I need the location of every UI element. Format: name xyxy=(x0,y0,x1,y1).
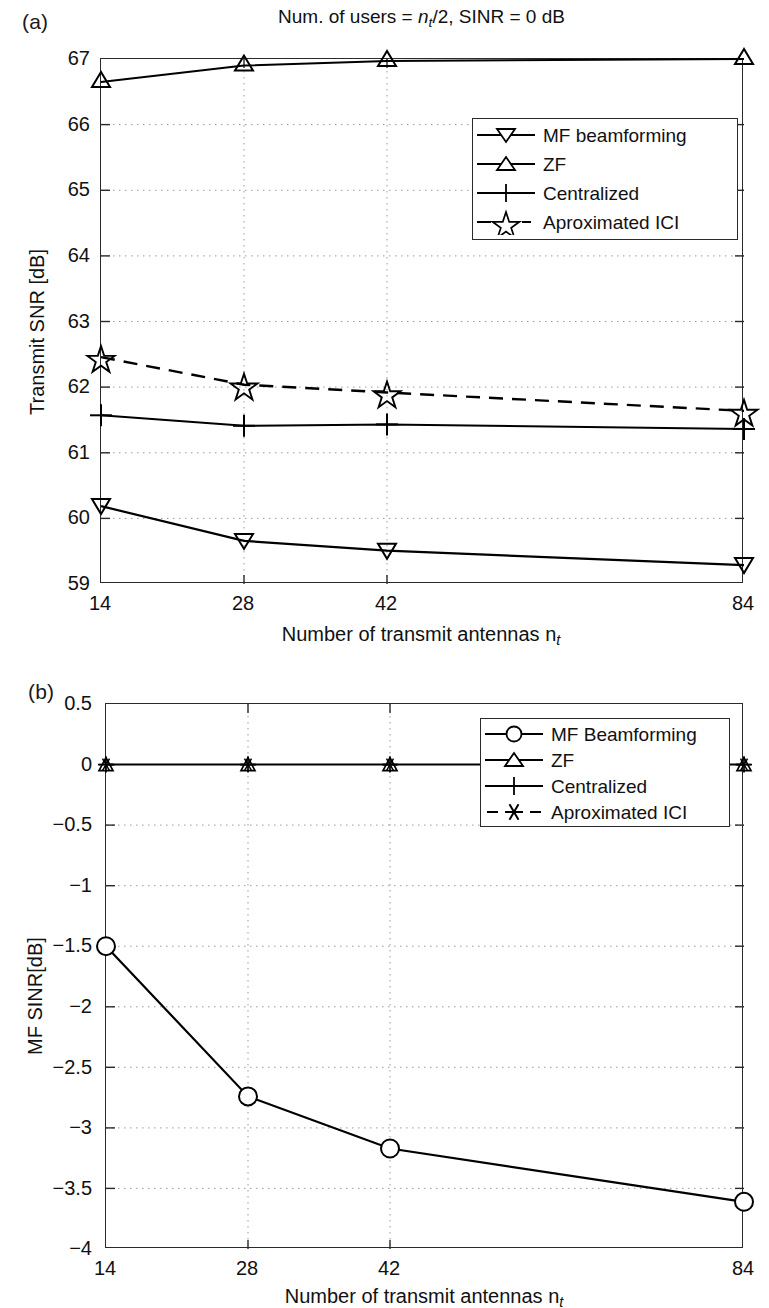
chart-a-legend: MF beamforming ZF Cent xyxy=(472,118,738,240)
chart-b-legend-label-zf: ZF xyxy=(547,751,574,770)
legend-sample-plus-icon xyxy=(473,180,539,206)
chart-a-legend-label-centralized: Centralized xyxy=(539,184,639,203)
chart-b-xtick-14: 14 xyxy=(94,1257,116,1280)
chart-b-ytick-m4: −4 xyxy=(30,1237,92,1260)
chart-a-ytick-65: 65 xyxy=(46,178,90,201)
chart-a-series-mf-line xyxy=(101,506,744,565)
chart-a-ytick-60: 60 xyxy=(46,506,90,529)
chart-a-ytick-63: 63 xyxy=(46,309,90,332)
chart-b-ytick-m3: −3 xyxy=(30,1116,92,1139)
chart-a-xlabel-var: n xyxy=(545,623,556,645)
chart-a-xtick-84: 84 xyxy=(732,592,754,615)
legend-sample-circle-icon xyxy=(481,721,547,747)
chart-b-xtick-28: 28 xyxy=(236,1257,258,1280)
chart-b-legend-label-ici: Aproximated ICI xyxy=(547,803,687,822)
chart-b-legend-item-centralized[interactable]: Centralized xyxy=(481,773,647,799)
panel-b: (b) 0.5 0 −0.5 −1 −1.5 −2 −2.5 −3 −3.5 −… xyxy=(0,660,769,1308)
chart-a-xtick-42: 42 xyxy=(375,592,397,615)
chart-a-legend-label-mf: MF beamforming xyxy=(539,126,687,145)
chart-a-xlabel-lead: Number of transmit antennas xyxy=(282,623,545,645)
chart-b-legend-item-ici[interactable]: Aproximated ICI xyxy=(481,799,687,825)
chart-b-grid-horizontal xyxy=(106,765,744,1189)
chart-a-ytick-67: 67 xyxy=(46,47,90,70)
chart-b-xlabel-var: n xyxy=(548,1285,559,1307)
legend-sample-asterisk-icon xyxy=(481,799,547,825)
chart-b-ytick-m3p5: −3.5 xyxy=(30,1176,92,1199)
chart-a-title-tail: /2, SINR = 0 dB xyxy=(432,6,565,27)
chart-b-xlabel-lead: Number of transmit antennas xyxy=(285,1285,548,1307)
legend-sample-triangle-down-icon xyxy=(473,122,539,148)
chart-b-series-mf-line xyxy=(106,946,744,1202)
chart-a-xtick-14: 14 xyxy=(89,592,111,615)
chart-b-xtick-42: 42 xyxy=(378,1257,400,1280)
chart-a-xtick-28: 28 xyxy=(232,592,254,615)
chart-a-legend-item-mf[interactable]: MF beamforming xyxy=(473,122,687,148)
chart-a-series-zf-line xyxy=(101,59,744,82)
chart-a-ytick-62: 62 xyxy=(46,375,90,398)
chart-b-ytick-m1: −1 xyxy=(30,873,92,896)
legend-sample-triangle-up-icon xyxy=(481,747,547,773)
chart-a-ylabel: Transmit SNR [dB] xyxy=(26,249,49,415)
chart-b-legend: MF Beamforming ZF Cent xyxy=(480,718,730,827)
chart-a-ytick-59: 59 xyxy=(46,572,90,595)
chart-a-ytick-66: 66 xyxy=(46,112,90,135)
chart-a-series-zf-markers xyxy=(92,49,753,87)
chart-b-ylabel: MF SINR[dB] xyxy=(24,937,47,1055)
chart-b-ytick-m2p5: −2.5 xyxy=(30,1055,92,1078)
chart-a-ytick-61: 61 xyxy=(46,440,90,463)
chart-a-xlabel-var-sub: t xyxy=(556,632,560,648)
legend-sample-star-icon xyxy=(473,209,539,235)
chart-a-legend-label-ici: Aproximated ICI xyxy=(539,213,679,232)
chart-a-legend-item-ici[interactable]: Aproximated ICI xyxy=(473,209,679,235)
chart-a-ytick-64: 64 xyxy=(46,243,90,266)
chart-b-legend-label-centralized: Centralized xyxy=(547,777,647,796)
chart-a-legend-item-zf[interactable]: ZF xyxy=(473,151,566,177)
panel-a-letter: (a) xyxy=(22,10,48,34)
chart-b-legend-item-mf[interactable]: MF Beamforming xyxy=(481,721,697,747)
chart-b-ytick-m0p5: −0.5 xyxy=(30,813,92,836)
chart-a-xlabel: Number of transmit antennas nt xyxy=(282,623,561,648)
chart-b-xtick-84: 84 xyxy=(732,1257,754,1280)
chart-b-series-mf-markers xyxy=(97,937,753,1211)
chart-a-title-lead: Num. of users = xyxy=(278,6,418,27)
chart-b-legend-label-mf: MF Beamforming xyxy=(547,725,697,744)
chart-b-xlabel-var-sub: t xyxy=(559,1294,563,1308)
legend-sample-plus-icon xyxy=(481,773,547,799)
chart-b-xlabel: Number of transmit antennas nt xyxy=(285,1285,564,1308)
chart-a-series-centralized-line xyxy=(101,415,744,429)
chart-b-ytick-0p5: 0.5 xyxy=(30,692,92,715)
chart-a-series-ici-line xyxy=(101,357,744,411)
panel-a: (a) Num. of users = nt/2, SINR = 0 dB 67… xyxy=(0,0,769,650)
chart-a-title: Num. of users = nt/2, SINR = 0 dB xyxy=(100,6,743,30)
chart-b-ytick-0: 0 xyxy=(30,752,92,775)
legend-sample-triangle-up-icon xyxy=(473,151,539,177)
chart-a-legend-label-zf: ZF xyxy=(539,155,566,174)
chart-b-legend-item-zf[interactable]: ZF xyxy=(481,747,574,773)
chart-a-series-ici-markers xyxy=(88,346,758,426)
chart-b-grid-vertical xyxy=(248,704,390,1249)
figure-container: (a) Num. of users = nt/2, SINR = 0 dB 67… xyxy=(0,0,769,1308)
chart-a-legend-item-centralized[interactable]: Centralized xyxy=(473,180,639,206)
chart-a-title-var: n xyxy=(418,6,429,27)
